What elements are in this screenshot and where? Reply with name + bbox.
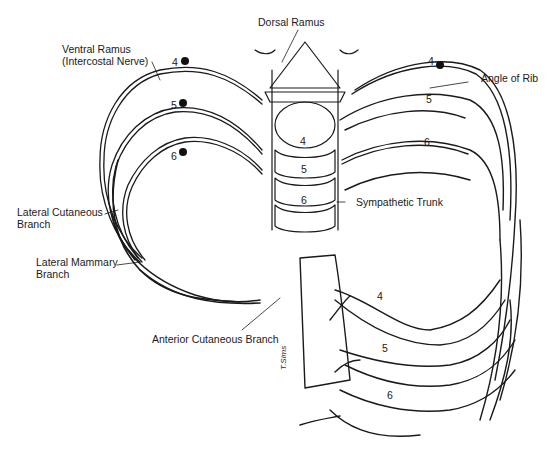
right-rib-number-6: 6 <box>424 136 430 148</box>
left-nerve-dot-6 <box>179 148 187 156</box>
right-nerve-number-4: 4 <box>428 55 434 67</box>
vertebra-number-4: 4 <box>300 135 306 147</box>
label-ventral-ramus: Ventral Ramus <box>62 43 131 55</box>
anatomy-drawing <box>0 0 555 453</box>
label-lateral-mammary: Lateral Mammary <box>36 256 118 268</box>
anterior-rib-number-4: 4 <box>377 290 383 302</box>
left-nerve-dot-5 <box>179 99 187 107</box>
left-nerve-dot-4 <box>181 57 189 65</box>
anterior-rib-number-5: 5 <box>382 342 388 354</box>
label-dorsal-ramus: Dorsal Ramus <box>258 16 325 28</box>
right-nerve-dot-4 <box>436 61 444 69</box>
left-nerve-number-5: 5 <box>171 99 177 111</box>
left-nerve-number-6: 6 <box>171 150 177 162</box>
label-angle-of-rib: Angle of Rib <box>481 72 538 84</box>
artist-signature: T.Sims <box>278 346 290 370</box>
label-lateral-cutaneous: Lateral Cutaneous <box>17 206 103 218</box>
right-rib-number-5: 5 <box>426 93 432 105</box>
anterior-rib-number-6: 6 <box>387 389 393 401</box>
vertebra-number-5: 5 <box>301 163 307 175</box>
label-lateral-cutaneous-sub: Branch <box>17 218 50 230</box>
left-nerve-number-4: 4 <box>172 56 178 68</box>
label-sympathetic-trunk: Sympathetic Trunk <box>356 196 443 208</box>
left-intercostal-nerves <box>100 67 262 262</box>
label-ventral-ramus-sub: (Intercostal Nerve) <box>62 55 148 67</box>
vertebra-number-6: 6 <box>301 194 307 206</box>
label-anterior-cutaneous: Anterior Cutaneous Branch <box>152 333 279 345</box>
label-lateral-mammary-sub: Branch <box>36 268 69 280</box>
